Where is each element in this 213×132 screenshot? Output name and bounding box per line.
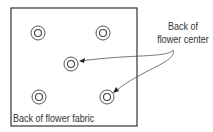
callout-label-line1: Back of [154,20,211,33]
flower-center-5 [100,90,114,104]
arrowhead-2 [113,87,119,93]
fabric-rectangle [11,8,137,126]
arrow-line-1 [81,50,173,61]
flower-center-1 [31,26,45,40]
arrowhead-1 [79,58,85,63]
callout-label-line2: flower center [154,33,211,46]
callout-label: Back of flower center [154,20,211,46]
flower-center-4 [32,90,46,104]
flower-center-2 [96,26,110,40]
fabric-label: Back of flower fabric [13,112,94,125]
flower-center-3 [64,57,78,71]
